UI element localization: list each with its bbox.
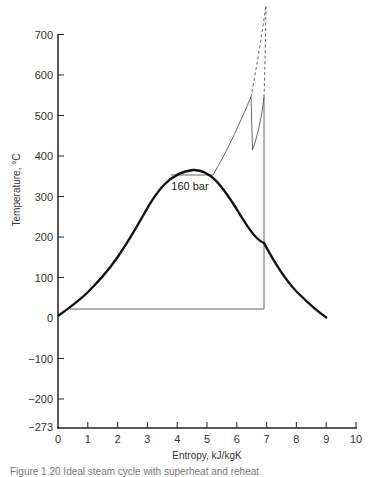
x-ticks bbox=[88, 422, 356, 428]
y-tick-label: 200 bbox=[35, 231, 53, 243]
y-tick-label: 300 bbox=[35, 191, 53, 203]
x-tick-label: 3 bbox=[144, 433, 150, 445]
y-tick-label: −100 bbox=[28, 353, 53, 365]
y-axis-title: Temperature, °C bbox=[11, 154, 22, 227]
reheat-curve bbox=[253, 97, 265, 150]
dashed-pressure-lines bbox=[251, 5, 266, 97]
x-tick-labels: 0 1 2 3 4 5 6 7 8 9 10 bbox=[55, 433, 362, 445]
x-tick-label: 0 bbox=[55, 433, 61, 445]
y-tick-label: −200 bbox=[28, 393, 53, 405]
saturation-dome bbox=[58, 170, 327, 318]
x-tick-label: 4 bbox=[174, 433, 180, 445]
x-tick-label: 9 bbox=[323, 433, 329, 445]
x-tick-label: 6 bbox=[234, 433, 240, 445]
y-tick-labels: 700 600 500 400 300 200 100 0 −100 −200 … bbox=[28, 29, 53, 434]
hp-expansion-line bbox=[251, 97, 253, 150]
dashed-line-1 bbox=[251, 5, 266, 97]
x-tick-label: 7 bbox=[264, 433, 270, 445]
y-tick-label: 500 bbox=[35, 110, 53, 122]
y-tick-label: 700 bbox=[35, 29, 53, 41]
y-ticks bbox=[58, 35, 64, 400]
y-tick-label: 0 bbox=[47, 312, 53, 324]
pressure-annotation: 160 bar bbox=[171, 180, 209, 192]
figure-caption: Figure 1.20 Ideal steam cycle with super… bbox=[10, 466, 259, 477]
x-tick-label: 8 bbox=[293, 433, 299, 445]
y-tick-label: 400 bbox=[35, 150, 53, 162]
x-tick-label: 2 bbox=[115, 433, 121, 445]
x-tick-label: 1 bbox=[85, 433, 91, 445]
cycle-lines bbox=[70, 97, 264, 309]
y-tick-label: 100 bbox=[35, 272, 53, 284]
x-tick-label: 10 bbox=[350, 433, 362, 445]
superheat-curve bbox=[213, 97, 251, 175]
x-axis-title: Entropy, kJ/kgK bbox=[172, 450, 242, 461]
y-tick-label: −273 bbox=[28, 421, 53, 433]
x-tick-label: 5 bbox=[204, 433, 210, 445]
y-tick-label: 600 bbox=[35, 69, 53, 81]
